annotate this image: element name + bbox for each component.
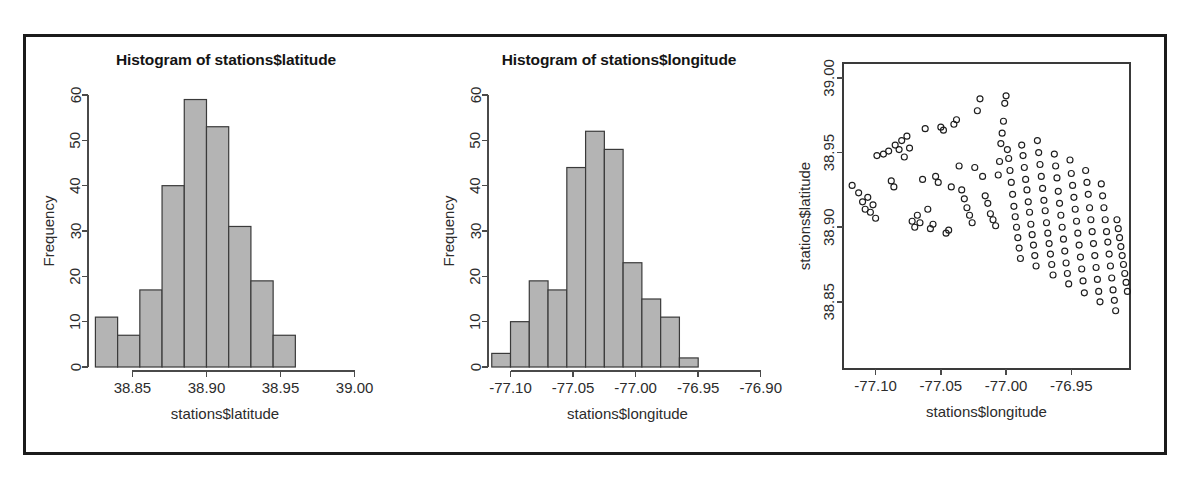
- histogram-longitude-plot: 0102030405060-77.10-77.05-77.00-76.95-76…: [419, 37, 819, 458]
- scatter-point: [914, 212, 920, 218]
- scatter-point: [1036, 150, 1042, 156]
- scatter-point: [1015, 235, 1021, 241]
- histogram-bar: [661, 317, 680, 367]
- x-axis-tick-label: -77.00: [614, 379, 657, 396]
- scatter-point: [901, 154, 907, 160]
- scatter-point: [985, 200, 991, 206]
- scatter-point: [1059, 224, 1065, 230]
- scatter-point: [1017, 256, 1023, 262]
- scatter-point: [1053, 163, 1059, 169]
- scatter-point: [999, 130, 1005, 136]
- scatter-point: [1075, 230, 1081, 236]
- x-axis-title: stations$longitude: [926, 403, 1047, 420]
- scatter-point: [1080, 278, 1086, 284]
- scatter-point: [1002, 100, 1008, 106]
- scatter-point: [873, 215, 879, 221]
- histogram-bar: [95, 317, 117, 367]
- scatter-point: [1079, 266, 1085, 272]
- scatter-point: [909, 218, 915, 224]
- scatter-point: [1087, 205, 1093, 211]
- scatter-point: [1019, 142, 1025, 148]
- x-axis-tick-label: 39.00: [336, 379, 374, 396]
- scatter-point: [961, 196, 967, 202]
- scatter-point: [886, 148, 892, 154]
- panel-histogram-longitude: Histogram of stations$longitude 01020304…: [419, 37, 819, 458]
- scatter-point: [899, 138, 905, 144]
- scatter-point: [925, 206, 931, 212]
- panel-scatter-lat-vs-lon: 38.8538.9038.9539.00-77.10-77.05-77.00-7…: [786, 37, 1167, 458]
- y-axis-tick-label: 40: [467, 177, 484, 194]
- scatter-point: [1084, 179, 1090, 185]
- scatter-point: [1097, 299, 1103, 305]
- scatter-point: [1049, 262, 1055, 268]
- histogram-bar: [511, 322, 530, 367]
- scatter-point: [1083, 167, 1089, 173]
- histogram-bar: [251, 281, 273, 367]
- scatter-point: [998, 141, 1004, 147]
- scatter-point: [1046, 241, 1052, 247]
- scatter-point: [849, 182, 855, 188]
- scatter-point: [1010, 191, 1016, 197]
- figure-outer-border: Histogram of stations$latitude 010203040…: [23, 34, 1167, 455]
- scatter-point: [948, 184, 954, 190]
- scatter-point: [920, 176, 926, 182]
- scatter-point: [904, 133, 910, 139]
- scatter-point: [1113, 308, 1119, 314]
- scatter-point: [1044, 220, 1050, 226]
- scatter-point: [1107, 263, 1113, 269]
- x-axis-tick-label: 38.90: [188, 379, 226, 396]
- scatter-point: [1071, 194, 1077, 200]
- scatter-point: [1024, 187, 1030, 193]
- scatter-point: [1063, 260, 1069, 266]
- scatter-point: [1081, 290, 1087, 296]
- y-axis-tick-label: 10: [467, 313, 484, 330]
- scatter-point: [1011, 203, 1017, 209]
- scatter-point: [1089, 229, 1095, 235]
- histogram-bar: [206, 127, 228, 367]
- x-axis-title: stations$longitude: [567, 405, 688, 422]
- scatter-point: [1120, 262, 1126, 268]
- figure-page: Histogram of stations$latitude 010203040…: [0, 0, 1189, 478]
- scatter-point: [1041, 197, 1047, 203]
- scatter-point: [917, 220, 923, 226]
- x-axis-tick-label: -76.95: [1050, 377, 1093, 394]
- scatter-point: [1047, 251, 1053, 257]
- scatter-point: [1007, 167, 1013, 173]
- scatter-point: [1008, 179, 1014, 185]
- scatter-point: [1012, 214, 1018, 220]
- scatter-point: [1110, 287, 1116, 293]
- scatter-point: [1068, 170, 1074, 176]
- scatter-point: [888, 178, 894, 184]
- scatter-point: [896, 147, 902, 153]
- scatter-point: [1051, 151, 1057, 157]
- scatter-point: [1038, 173, 1044, 179]
- y-axis-tick-label: 30: [67, 223, 84, 240]
- y-axis-title: stations$latitude: [796, 162, 813, 270]
- scatter-point: [974, 108, 980, 114]
- scatter-point: [1055, 188, 1061, 194]
- scatter-point: [1118, 244, 1124, 250]
- scatter-point: [1042, 208, 1048, 214]
- scatter-plot: 38.8538.9038.9539.00-77.10-77.05-77.00-7…: [786, 37, 1167, 458]
- scatter-point: [870, 202, 876, 208]
- histogram-bar: [162, 186, 184, 367]
- y-axis-tick-label: 50: [67, 132, 84, 149]
- y-axis-tick-label: 38.90: [821, 208, 838, 246]
- scatter-point: [1004, 147, 1010, 153]
- scatter-point: [1066, 281, 1072, 287]
- scatter-point: [1020, 153, 1026, 159]
- scatter-point: [891, 184, 897, 190]
- histogram-bar: [229, 226, 251, 367]
- scatter-point: [993, 223, 999, 229]
- scatter-point: [1037, 162, 1043, 168]
- scatter-point: [865, 194, 871, 200]
- scatter-point: [907, 145, 913, 151]
- scatter-plot-frame: [843, 63, 1130, 369]
- scatter-point: [935, 179, 941, 185]
- scatter-point: [1050, 272, 1056, 278]
- y-axis-tick-label: 40: [67, 177, 84, 194]
- scatter-point: [1033, 263, 1039, 269]
- histogram-bar: [604, 149, 623, 367]
- scatter-point: [982, 193, 988, 199]
- scatter-point: [1098, 181, 1104, 187]
